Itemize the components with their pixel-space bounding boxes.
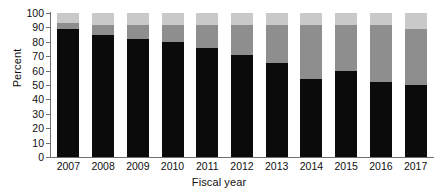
y-axis-tick-labels: 0102030405060708090100: [0, 0, 44, 196]
bar-segment-medium-2012: [231, 25, 253, 55]
y-axis-tick-label: 80: [0, 37, 44, 47]
bar-segment-dark-2011: [196, 48, 218, 157]
x-axis-line: [50, 157, 434, 158]
bar-segment-dark-2017: [405, 85, 427, 157]
bar-2009[interactable]: [127, 13, 149, 157]
bar-segment-dark-2007: [57, 29, 79, 157]
plot-area: [51, 13, 433, 157]
bar-segment-light-2012: [231, 13, 253, 25]
bar-segment-medium-2009: [127, 25, 149, 39]
bar-segment-light-2016: [370, 13, 392, 25]
bar-2014[interactable]: [300, 13, 322, 157]
y-axis-tick-mark: [46, 99, 51, 100]
bar-segment-light-2010: [162, 13, 184, 25]
y-axis-tick-mark: [46, 71, 51, 72]
bar-2016[interactable]: [370, 13, 392, 157]
bar-segment-light-2015: [335, 13, 357, 25]
bar-segment-medium-2014: [300, 25, 322, 80]
bar-segment-medium-2015: [335, 25, 357, 71]
bar-segment-light-2011: [196, 13, 218, 25]
y-axis-tick-mark: [46, 157, 51, 158]
y-axis-tick-label: 60: [0, 66, 44, 76]
bar-segment-medium-2017: [405, 29, 427, 85]
bar-segment-dark-2016: [370, 82, 392, 157]
bar-segment-medium-2016: [370, 25, 392, 83]
bar-segment-light-2009: [127, 13, 149, 25]
y-axis-tick-label: 30: [0, 109, 44, 119]
y-axis-tick-label: 50: [0, 80, 44, 90]
bar-segment-light-2008: [92, 13, 114, 25]
bar-segment-light-2017: [405, 13, 427, 29]
y-axis-tick-mark: [46, 13, 51, 14]
bar-segment-medium-2008: [92, 25, 114, 35]
bar-segment-dark-2015: [335, 71, 357, 157]
y-axis-tick-mark: [46, 143, 51, 144]
bar-segment-medium-2010: [162, 25, 184, 42]
bar-segment-dark-2014: [300, 79, 322, 157]
bar-segment-light-2014: [300, 13, 322, 25]
stacked-bar-chart: Percent 0102030405060708090100 200720082…: [0, 0, 438, 196]
y-axis-tick-mark: [46, 27, 51, 28]
bar-2008[interactable]: [92, 13, 114, 157]
y-axis-tick-label: 0: [0, 152, 44, 162]
y-axis-tick-mark: [46, 42, 51, 43]
y-axis-tick-mark: [46, 56, 51, 57]
bar-2012[interactable]: [231, 13, 253, 157]
bar-2011[interactable]: [196, 13, 218, 157]
x-axis-tick-label-2017: 2017: [394, 160, 438, 172]
bar-segment-medium-2013: [266, 25, 288, 64]
y-axis-tick-mark: [46, 85, 51, 86]
bar-2013[interactable]: [266, 13, 288, 157]
bar-2010[interactable]: [162, 13, 184, 157]
bar-segment-light-2007: [57, 13, 79, 23]
bar-segment-dark-2013: [266, 63, 288, 157]
y-axis-tick-label: 100: [0, 8, 44, 18]
y-axis-tick-label: 10: [0, 138, 44, 148]
y-axis-tick-mark: [46, 128, 51, 129]
bar-2015[interactable]: [335, 13, 357, 157]
y-axis-tick-label: 90: [0, 22, 44, 32]
bar-segment-light-2013: [266, 13, 288, 25]
bar-segment-medium-2007: [57, 23, 79, 29]
y-axis-tick-label: 70: [0, 51, 44, 61]
bar-segment-dark-2009: [127, 39, 149, 157]
x-axis-title: Fiscal year: [0, 176, 438, 188]
bar-segment-dark-2010: [162, 42, 184, 157]
bar-segment-dark-2012: [231, 55, 253, 157]
bar-2007[interactable]: [57, 13, 79, 157]
y-axis-tick-label: 20: [0, 123, 44, 133]
bar-2017[interactable]: [405, 13, 427, 157]
bar-segment-medium-2011: [196, 25, 218, 48]
y-axis-tick-label: 40: [0, 94, 44, 104]
bar-segment-dark-2008: [92, 35, 114, 157]
y-axis-tick-mark: [46, 114, 51, 115]
